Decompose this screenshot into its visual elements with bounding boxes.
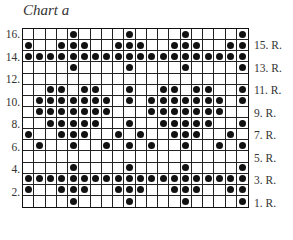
chart-cell xyxy=(226,163,237,174)
chart-cell xyxy=(102,118,113,129)
filled-dot-icon xyxy=(216,142,223,149)
filled-dot-icon xyxy=(182,53,189,60)
filled-dot-icon xyxy=(70,120,77,127)
filled-dot-icon xyxy=(216,108,223,115)
chart-cell xyxy=(158,74,169,85)
chart-cell xyxy=(203,29,214,40)
filled-dot-icon xyxy=(160,175,167,182)
chart-cell xyxy=(124,174,135,185)
chart-cell xyxy=(124,163,135,174)
chart-cell xyxy=(102,85,113,96)
chart-cell xyxy=(237,96,248,107)
chart-cell xyxy=(23,29,34,40)
filled-dot-icon xyxy=(227,53,234,60)
chart-cell xyxy=(158,151,169,162)
row-label-left: 2. xyxy=(2,187,20,198)
chart-cell xyxy=(34,40,45,51)
chart-cell xyxy=(113,151,124,162)
chart-cell xyxy=(102,151,113,162)
chart-cell xyxy=(203,140,214,151)
chart-cell xyxy=(192,74,203,85)
chart-cell xyxy=(158,96,169,107)
chart-cell xyxy=(91,107,102,118)
chart-cell xyxy=(203,85,214,96)
chart-cell xyxy=(169,74,180,85)
filled-dot-icon xyxy=(92,108,99,115)
filled-dot-icon xyxy=(137,186,144,193)
filled-dot-icon xyxy=(148,175,155,182)
chart-cell xyxy=(124,62,135,73)
filled-dot-icon xyxy=(126,64,133,71)
chart-cell xyxy=(181,118,192,129)
chart-cell xyxy=(226,151,237,162)
chart-cell xyxy=(192,85,203,96)
chart-cell xyxy=(226,40,237,51)
filled-dot-icon xyxy=(182,142,189,149)
filled-dot-icon xyxy=(47,120,54,127)
chart-cell xyxy=(79,129,90,140)
filled-dot-icon xyxy=(182,31,189,38)
chart-cell xyxy=(214,51,225,62)
filled-dot-icon xyxy=(239,164,246,171)
filled-dot-icon xyxy=(70,97,77,104)
filled-dot-icon xyxy=(47,86,54,93)
chart-cell xyxy=(136,29,147,40)
chart-cell xyxy=(147,185,158,196)
chart-cell xyxy=(113,62,124,73)
chart-cell xyxy=(23,151,34,162)
filled-dot-icon xyxy=(239,86,246,93)
filled-dot-icon xyxy=(239,186,246,193)
filled-dot-icon xyxy=(239,97,246,104)
chart-cell xyxy=(203,51,214,62)
chart-cell xyxy=(192,118,203,129)
chart-cell xyxy=(102,40,113,51)
chart-cell xyxy=(124,29,135,40)
chart-cell xyxy=(136,51,147,62)
filled-dot-icon xyxy=(126,142,133,149)
chart-cell xyxy=(23,96,34,107)
filled-dot-icon xyxy=(239,198,246,205)
filled-dot-icon xyxy=(171,175,178,182)
chart-cell xyxy=(91,29,102,40)
filled-dot-icon xyxy=(193,86,200,93)
chart-cell xyxy=(124,74,135,85)
chart-cell xyxy=(91,129,102,140)
chart-cell xyxy=(169,118,180,129)
chart-cell xyxy=(147,74,158,85)
filled-dot-icon xyxy=(58,108,65,115)
filled-dot-icon xyxy=(182,131,189,138)
filled-dot-icon xyxy=(81,108,88,115)
row-label-right: 9. R. xyxy=(254,108,276,119)
chart-cell xyxy=(91,74,102,85)
chart-cell xyxy=(203,151,214,162)
chart-cell xyxy=(136,85,147,96)
chart-cell xyxy=(226,118,237,129)
filled-dot-icon xyxy=(148,97,155,104)
row-label-right: 5. R. xyxy=(254,153,276,164)
filled-dot-icon xyxy=(25,53,32,60)
row-label-right: 3. R. xyxy=(254,175,276,186)
chart-cell xyxy=(113,174,124,185)
chart-cell xyxy=(237,62,248,73)
filled-dot-icon xyxy=(103,53,110,60)
chart-cell xyxy=(203,196,214,207)
row-label-left: 10. xyxy=(2,97,20,108)
chart-cell xyxy=(181,196,192,207)
filled-dot-icon xyxy=(182,108,189,115)
chart-cell xyxy=(46,74,57,85)
chart-cell xyxy=(214,62,225,73)
chart-cell xyxy=(147,107,158,118)
chart-cell xyxy=(203,118,214,129)
chart-cell xyxy=(192,196,203,207)
filled-dot-icon xyxy=(193,108,200,115)
chart-cell xyxy=(91,151,102,162)
chart-cell xyxy=(34,163,45,174)
chart-cell xyxy=(214,140,225,151)
filled-dot-icon xyxy=(92,53,99,60)
filled-dot-icon xyxy=(81,97,88,104)
filled-dot-icon xyxy=(160,86,167,93)
chart-cell xyxy=(147,51,158,62)
row-label-left: 8. xyxy=(2,119,20,130)
filled-dot-icon xyxy=(115,186,122,193)
chart-cell xyxy=(57,196,68,207)
